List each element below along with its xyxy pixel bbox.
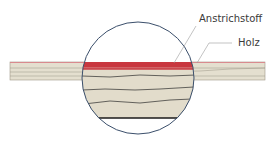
label-wood: Holz: [238, 38, 260, 48]
wood-leader-line: [197, 43, 232, 63]
label-coating: Anstrichstoff: [199, 14, 262, 24]
